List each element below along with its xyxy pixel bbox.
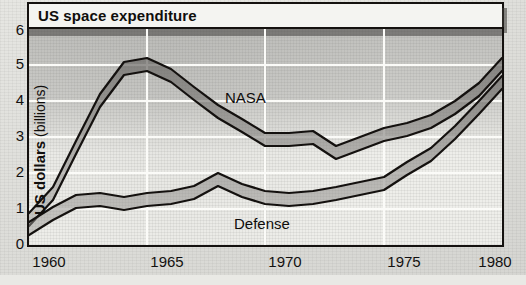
y-tick-6: 6 <box>2 21 24 38</box>
y-axis-ticks: 0 1 2 3 4 5 6 <box>0 27 24 247</box>
y-axis-title-main: US dollars <box>31 141 48 215</box>
y-tick-5: 5 <box>2 55 24 72</box>
y-tick-3: 3 <box>2 127 24 144</box>
x-tick-1970: 1970 <box>268 253 301 270</box>
x-axis-ticks: 1960 1965 1970 1975 1980 <box>0 253 526 275</box>
chart-figure: US space expenditure <box>0 0 526 285</box>
x-tick-1975: 1975 <box>387 253 420 270</box>
plot-right-shadow <box>502 34 504 247</box>
chart-title-bar: US space expenditure <box>27 2 504 27</box>
y-tick-0: 0 <box>2 235 24 252</box>
page-bottom-band <box>0 275 526 285</box>
plot-area: NASA Defense <box>27 27 504 247</box>
y-tick-1: 1 <box>2 199 24 216</box>
page-title: US space expenditure <box>29 7 197 24</box>
chart-canvas <box>29 29 502 245</box>
plot-bottom-shadow <box>34 245 504 247</box>
y-tick-2: 2 <box>2 163 24 180</box>
series-label-defense: Defense <box>234 215 290 232</box>
y-axis-title: US dollars (billions) <box>31 85 48 215</box>
y-tick-4: 4 <box>2 91 24 108</box>
series-label-nasa: NASA <box>225 89 266 106</box>
x-tick-1965: 1965 <box>150 253 183 270</box>
x-tick-1980: 1980 <box>478 253 511 270</box>
y-axis-title-unit: (billions) <box>32 85 48 137</box>
x-tick-1960: 1960 <box>32 253 65 270</box>
